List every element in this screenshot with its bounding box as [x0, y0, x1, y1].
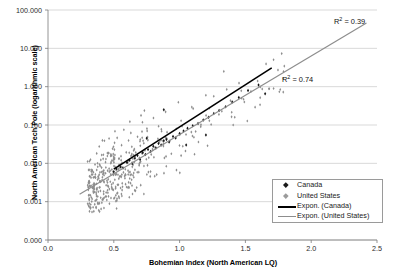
legend-label: Canada	[297, 180, 322, 190]
legend-label: United States	[297, 191, 340, 201]
legend: Canada United States Expon. (Canada) Exp…	[272, 179, 383, 223]
line-swatch-icon	[277, 201, 297, 211]
diamond-marker-icon	[277, 180, 297, 190]
legend-label: Expon. (United States)	[297, 211, 369, 221]
legend-label: Expon. (Canada)	[297, 201, 351, 211]
legend-item-expon-united-states: Expon. (United States)	[273, 211, 382, 221]
legend-item-united-states: United States	[273, 190, 382, 200]
x-axis-title: Bohemian Index (North American LQ)	[48, 258, 378, 267]
trendline-united-states	[80, 23, 367, 194]
trendline-canada	[114, 68, 272, 169]
diamond-marker-icon	[277, 191, 297, 201]
r2-label-united-states: R2 = 0.39	[334, 16, 365, 26]
x-tick-label: 2.0	[291, 244, 331, 253]
data-points-united-states	[87, 52, 286, 213]
x-tick-label: 0.0	[28, 244, 68, 253]
legend-item-canada: Canada	[273, 180, 382, 190]
plot-canvas	[0, 0, 400, 269]
legend-item-expon-canada: Expon. (Canada)	[273, 201, 382, 211]
y-tick-label: 100.000	[2, 6, 42, 15]
x-tick-label: 1.0	[160, 244, 200, 253]
x-tick-label: 1.5	[225, 244, 265, 253]
x-tick-label: 0.5	[94, 244, 134, 253]
r2-label-canada: R2 = 0.74	[282, 74, 313, 84]
line-swatch-icon	[277, 211, 297, 221]
x-tick-label: 2.5	[357, 244, 397, 253]
y-axis-title: North American Tech Pole (logarithmic sc…	[30, 28, 39, 218]
scatter-chart: 100.00010.0001.0000.1000.0100.0010.000 0…	[0, 0, 400, 269]
